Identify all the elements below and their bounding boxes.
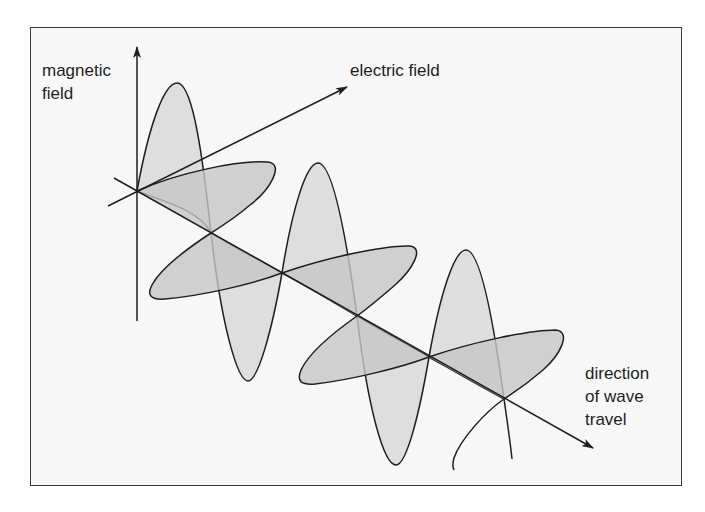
- electric-tail: [453, 399, 504, 470]
- direction-of-travel-axis: [114, 178, 593, 448]
- diagram-canvas: magnetic field electric field direction …: [0, 0, 705, 512]
- magnetic-field-label: magnetic field: [42, 59, 111, 105]
- magnetic-field-label-line-1: magnetic: [42, 59, 111, 82]
- direction-label-line-3: travel: [585, 408, 649, 431]
- direction-of-travel-label: direction of wave travel: [585, 362, 649, 431]
- electric-field-label: electric field: [350, 59, 440, 82]
- electric-wave: [137, 162, 564, 399]
- wave-tails: [453, 399, 512, 470]
- direction-label-line-2: of wave: [585, 385, 649, 408]
- direction-label-line-1: direction: [585, 362, 649, 385]
- magnetic-tail: [504, 399, 512, 459]
- magnetic-field-label-line-2: field: [42, 82, 111, 105]
